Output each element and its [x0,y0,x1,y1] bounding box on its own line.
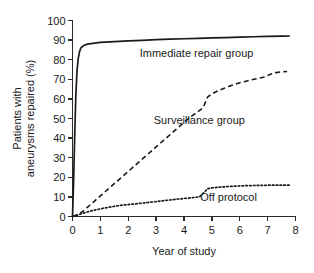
x-tick-label: 5 [209,224,215,236]
x-axis-title: Year of study [152,245,216,257]
y-axis-title-line: aneurysms repaired (%) [24,60,36,177]
y-tick-label: 90 [53,34,65,46]
x-tick-label: 8 [292,224,298,236]
series-label: Immediate repair group [140,47,254,59]
x-tick-label: 7 [265,224,271,236]
x-axis-ticks: 012345678 [69,217,298,236]
y-axis-title-line: Patients with [11,87,23,149]
x-tick-label: 3 [153,224,159,236]
series-annotations: Immediate repair groupSurveillance group… [140,47,257,203]
x-tick-label: 1 [97,224,103,236]
y-tick-label: 0 [59,211,65,223]
x-tick-label: 2 [125,224,131,236]
y-tick-label: 100 [47,15,65,27]
y-tick-label: 10 [53,191,65,203]
y-tick-label: 20 [53,171,65,183]
series-line [73,185,290,216]
x-tick-label: 6 [237,224,243,236]
line-chart: 0102030405060708090100 012345678 Immedia… [0,0,314,273]
series-label: Off protocol [200,191,257,203]
y-tick-label: 60 [53,93,65,105]
y-tick-label: 30 [53,152,65,164]
x-tick-label: 0 [69,224,75,236]
series-label: Surveillance group [154,114,245,126]
y-tick-label: 80 [53,54,65,66]
y-tick-label: 40 [53,132,65,144]
chart-figure: 0102030405060708090100 012345678 Immedia… [0,0,314,273]
y-tick-label: 50 [53,113,65,125]
x-tick-label: 4 [181,224,187,236]
y-axis-ticks: 0102030405060708090100 [47,15,72,223]
y-tick-label: 70 [53,73,65,85]
